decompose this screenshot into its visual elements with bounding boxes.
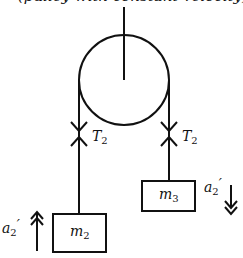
accel-arrow-up-icon: [31, 212, 43, 251]
accel-label-left: a2′: [2, 217, 21, 238]
accel-label-right: a2′: [204, 176, 223, 197]
tension-label-left: T2: [92, 128, 108, 146]
mass-label-m3: m3: [159, 186, 179, 204]
mass-label-m2: m2: [70, 223, 90, 241]
pulley-diagram: T2 T2 m3 m2 a2′ a2′: [0, 0, 243, 258]
accel-arrow-down-icon: [225, 185, 237, 214]
tension-label-right: T2: [182, 128, 198, 146]
